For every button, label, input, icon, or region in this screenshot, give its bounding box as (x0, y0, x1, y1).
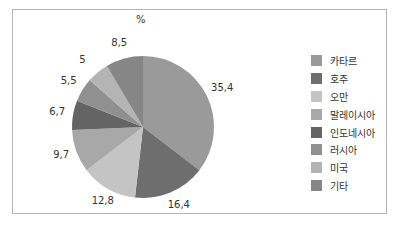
legend-swatch (311, 144, 322, 155)
legend-swatch (311, 73, 322, 84)
slice-value-label: 6,7 (49, 106, 65, 117)
legend-swatch (311, 91, 322, 102)
legend-label: 러시아 (330, 142, 357, 157)
legend-item: 러시아 (311, 141, 375, 159)
legend-label: 호주 (330, 71, 348, 86)
legend-label: 기타 (330, 178, 348, 193)
legend-swatch (311, 127, 322, 138)
legend-item: 오만 (311, 88, 375, 106)
legend-item: 인도네시아 (311, 123, 375, 141)
slice-value-label: 16,4 (168, 199, 190, 210)
legend-label: 카타르 (330, 53, 357, 68)
legend-label: 말레이시아 (330, 107, 375, 122)
legend-item: 호주 (311, 70, 375, 88)
slice-value-label: 8,5 (111, 37, 127, 48)
legend-label: 인도네시아 (330, 125, 375, 140)
legend-item: 말레이시아 (311, 105, 375, 123)
slice-value-label: 12,8 (92, 195, 114, 206)
legend-swatch (311, 109, 322, 120)
legend-item: 미국 (311, 159, 375, 177)
legend-label: 오만 (330, 89, 348, 104)
slice-value-label: 5 (79, 54, 85, 65)
legend-swatch (311, 180, 322, 191)
legend-label: 미국 (330, 160, 348, 175)
legend-item: 기타 (311, 177, 375, 195)
slice-value-label: 9,7 (53, 149, 69, 160)
legend: 카타르 호주 오만 말레이시아 인도네시아 러시아 미국 기타 (311, 52, 375, 194)
slice-value-label: 5,5 (61, 75, 77, 86)
legend-swatch (311, 162, 322, 173)
legend-item: 카타르 (311, 52, 375, 70)
slice-value-label: 35,4 (211, 82, 233, 93)
legend-swatch (311, 55, 322, 66)
